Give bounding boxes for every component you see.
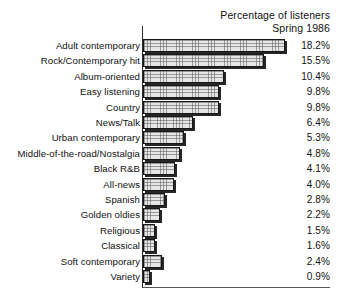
bar: [143, 70, 224, 83]
bar-wrapper: [143, 54, 264, 67]
category-label: Rock/Contemporary hit: [6, 53, 140, 68]
bar-row: Album-oriented10.4%: [0, 69, 346, 84]
bar-row: Rock/Contemporary hit15.5%: [0, 53, 346, 68]
value-label: 9.8%: [307, 84, 330, 99]
bar-wrapper: [143, 270, 150, 283]
category-label: Urban contemporary: [6, 130, 140, 145]
value-label: 2.4%: [307, 254, 330, 269]
value-label: 15.5%: [301, 53, 330, 68]
bar: [143, 239, 155, 252]
bar-wrapper: [143, 193, 165, 206]
bar-wrapper: [143, 178, 174, 191]
value-label: 4.0%: [307, 177, 330, 192]
value-label: 9.8%: [307, 100, 330, 115]
bar-wrapper: [143, 131, 184, 144]
bar: [143, 162, 175, 175]
category-label: News/Talk: [6, 115, 140, 130]
category-label: Middle-of-the-road/Nostalgia: [6, 146, 140, 161]
bar-wrapper: [143, 39, 285, 52]
bar-wrapper: [143, 255, 162, 268]
category-label: All-news: [6, 177, 140, 192]
bar-wrapper: [143, 85, 219, 98]
category-label: Soft contemporary: [6, 254, 140, 269]
bar-row: Adult contemporary18.2%: [0, 38, 346, 53]
value-label: 18.2%: [301, 38, 330, 53]
bar-wrapper: [143, 116, 193, 129]
bar-row: Soft contemporary2.4%: [0, 254, 346, 269]
value-label: 2.2%: [307, 207, 330, 222]
bar-wrapper: [143, 239, 155, 252]
category-label: Variety: [6, 269, 140, 284]
bar-wrapper: [143, 70, 224, 83]
bar-wrapper: [143, 147, 180, 160]
bar: [143, 255, 162, 268]
value-label: 10.4%: [301, 69, 330, 84]
bar: [143, 193, 165, 206]
bar: [143, 131, 184, 144]
bar-row: Urban contemporary5.3%: [0, 130, 346, 145]
bar-row: Classical1.6%: [0, 238, 346, 253]
category-label: Easy listening: [6, 84, 140, 99]
bar-row: News/Talk6.4%: [0, 115, 346, 130]
value-label: 1.5%: [307, 223, 330, 238]
value-label: 4.1%: [307, 161, 330, 176]
category-label: Black R&B: [6, 161, 140, 176]
bar: [143, 85, 219, 98]
bar: [143, 224, 155, 237]
bar-row: Middle-of-the-road/Nostalgia4.8%: [0, 146, 346, 161]
value-label: 4.8%: [307, 146, 330, 161]
bar: [143, 101, 219, 114]
bar-row: Spanish2.8%: [0, 192, 346, 207]
category-label: Classical: [6, 238, 140, 253]
category-label: Golden oldies: [6, 207, 140, 222]
bar: [143, 208, 160, 221]
category-label: Religious: [6, 223, 140, 238]
bar-chart: Percentage of listeners Spring 1986 Adul…: [0, 0, 346, 306]
category-label: Spanish: [6, 192, 140, 207]
bar-wrapper: [143, 101, 219, 114]
value-label: 1.6%: [307, 238, 330, 253]
bar: [143, 54, 264, 67]
bar-wrapper: [143, 208, 160, 221]
bar-row: Variety0.9%: [0, 269, 346, 284]
bar-row: All-news4.0%: [0, 177, 346, 192]
value-label: 0.9%: [307, 269, 330, 284]
category-label: Country: [6, 100, 140, 115]
bar-row: Easy listening9.8%: [0, 84, 346, 99]
category-label: Album-oriented: [6, 69, 140, 84]
bar-row: Country9.8%: [0, 100, 346, 115]
bar-wrapper: [143, 224, 155, 237]
value-label: 2.8%: [307, 192, 330, 207]
bar-row: Religious1.5%: [0, 223, 346, 238]
bar: [143, 147, 180, 160]
bar: [143, 270, 150, 283]
x-axis-baseline: [142, 287, 330, 288]
bar-wrapper: [143, 162, 175, 175]
plot-area: Adult contemporary18.2%Rock/Contemporary…: [0, 0, 346, 306]
category-label: Adult contemporary: [6, 38, 140, 53]
value-label: 6.4%: [307, 115, 330, 130]
bar-row: Black R&B4.1%: [0, 161, 346, 176]
bar: [143, 116, 193, 129]
value-label: 5.3%: [307, 130, 330, 145]
bar: [143, 39, 285, 52]
bar-row: Golden oldies2.2%: [0, 207, 346, 222]
bar: [143, 178, 174, 191]
